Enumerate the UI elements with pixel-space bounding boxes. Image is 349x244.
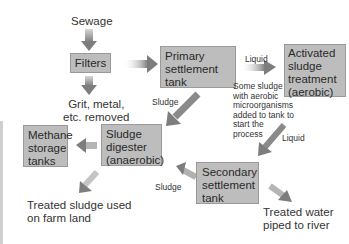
primary-settlement-tank-box: Primary settlement tank <box>160 46 236 88</box>
arrow-sewage-filters <box>81 29 97 51</box>
edge-label-liquid-2: Liquid <box>282 133 305 143</box>
arrow-digester-farm <box>79 172 97 193</box>
edge-label-sludge-2: Sludge <box>155 182 181 192</box>
filters-label: Filters <box>75 57 106 69</box>
arrow-secondary-river <box>270 186 292 202</box>
arrow-digester-methane <box>76 138 97 153</box>
grit-removed-label: Grit, metal, etc. removed <box>63 98 129 124</box>
arrow-filters-primary <box>123 55 158 73</box>
secondary-settlement-tank-box: Secondary settlement tank <box>196 162 259 204</box>
filters-box: Filters <box>70 53 111 73</box>
treated-water-label: Treated water piped to river <box>263 206 334 232</box>
arrow-filters-grit <box>81 76 97 95</box>
sewage-label: Sewage <box>71 15 113 28</box>
arrow-secondary-digester <box>176 162 196 177</box>
edge-label-liquid-1: Liquid <box>245 54 268 64</box>
edge-label-sludge-1: Sludge <box>152 97 178 107</box>
methane-storage-tanks-box: Methane storage tanks <box>23 125 68 167</box>
treated-sludge-label: Treated sludge used on farm land <box>27 199 131 225</box>
sludge-digester-box: Sludge digester (anaerobic) <box>101 124 162 166</box>
aerobic-note: Some sludge with aerobic microorganisms … <box>233 82 294 139</box>
